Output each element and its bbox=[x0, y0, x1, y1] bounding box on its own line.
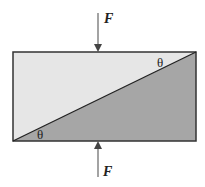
bottom-force-label: F bbox=[102, 164, 113, 179]
angle-label-bottom-left: θ bbox=[37, 127, 43, 142]
diagram-canvas: F F θ θ bbox=[0, 0, 205, 187]
angle-label-top-right: θ bbox=[157, 55, 163, 70]
top-force-label: F bbox=[103, 11, 114, 26]
